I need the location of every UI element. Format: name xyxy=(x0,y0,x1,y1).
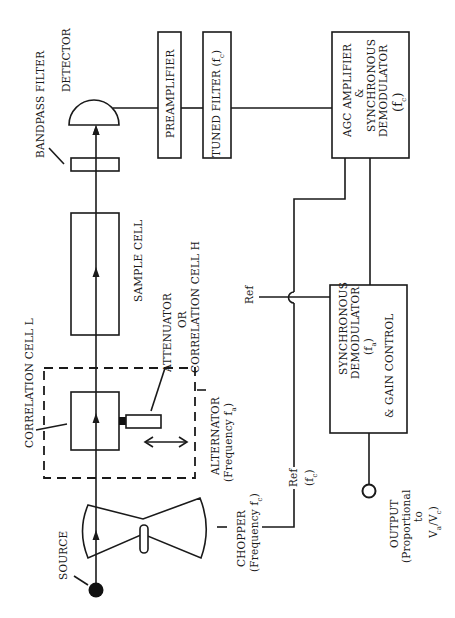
bandpass-filter-leader xyxy=(49,148,64,164)
attenuator-leader xyxy=(151,368,165,411)
agc-label-line2: & xyxy=(353,88,365,98)
sync-demod-line2: DEMODULATOR xyxy=(349,286,361,379)
chopper-label: CHOPPER xyxy=(235,509,247,567)
output-label-line4: Va/Vc) xyxy=(427,506,443,539)
attenuator-label-line2: OR xyxy=(176,310,188,328)
output-terminal-icon xyxy=(363,485,376,498)
ref-c-frequency: (fc) xyxy=(303,469,319,486)
source-label: SOURCE xyxy=(57,531,69,580)
output-label-line1: OUTPUT xyxy=(388,500,400,548)
detector-label: DETECTOR xyxy=(60,27,72,92)
ref-a-label: Ref xyxy=(243,284,255,304)
bandpass-filter xyxy=(71,158,119,171)
sync-demod-line1: SYNCHRONOUS xyxy=(337,282,349,375)
beam-arrow-icon xyxy=(93,125,100,135)
attenuator-label-line3: CORRELATION CELL H xyxy=(189,241,201,373)
agc-label-line3: SYNCHRONOUS xyxy=(365,39,377,132)
alternator-label: ALTERNATOR xyxy=(209,396,221,476)
chopper-frequency: (Frequency fc) xyxy=(248,493,264,572)
attenuator-label-line1: ATTENUATOR xyxy=(161,292,173,373)
bandpass-filter-label: BANDPASS FILTER xyxy=(34,50,46,158)
detector-icon xyxy=(69,100,119,125)
output-label-line3: to xyxy=(412,511,424,522)
source-icon xyxy=(89,583,104,598)
correlation-cell-l-leader xyxy=(36,424,67,430)
agc-label-line4: DEMODULATOR xyxy=(377,44,389,137)
attenuator-cell-h xyxy=(126,415,161,428)
agc-label-line1: AGC AMPLIFIER xyxy=(341,43,353,138)
chopper-hub-icon xyxy=(140,525,148,553)
alternator-frequency: (Frequency fa) xyxy=(222,403,238,482)
wire-agc-ref xyxy=(294,158,345,292)
correlation-cell-l-label: CORRELATION CELL L xyxy=(23,318,35,448)
output-label-line2: (Proportional xyxy=(400,489,412,563)
optical-correlation-block-diagram: SOURCE CHOPPER (Frequency fc) ALTERNATOR… xyxy=(0,0,455,618)
attenuator-connector xyxy=(119,417,126,425)
ref-c-label: Ref xyxy=(287,467,299,487)
sync-demod-line4: & GAIN CONTROL xyxy=(383,314,395,418)
preamplifier-label: PREAMPLIFIER xyxy=(164,49,176,138)
source-leader xyxy=(74,576,88,585)
beam-arrow-icon xyxy=(93,530,100,540)
sample-cell-label: SAMPLE CELL xyxy=(132,220,144,302)
